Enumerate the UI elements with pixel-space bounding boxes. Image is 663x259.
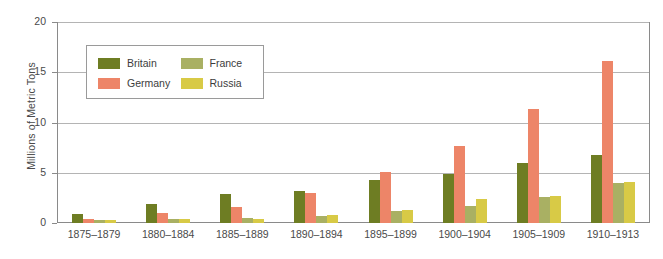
x-axis-tick-label: 1905–1909 xyxy=(513,228,566,240)
bar-britain xyxy=(72,214,83,223)
x-axis-tick-group: 1875–18791880–18841885–18891890–18941895… xyxy=(57,228,650,248)
bar-russia xyxy=(550,196,561,223)
bar-group xyxy=(428,22,502,223)
bar-group xyxy=(502,22,576,223)
bar-france xyxy=(316,216,327,223)
y-axis-tick-label: 20 xyxy=(16,15,46,27)
bar-britain xyxy=(369,180,380,223)
y-axis-tick-label: 10 xyxy=(16,116,46,128)
legend-item-russia: Russia xyxy=(181,77,264,89)
bar-germany xyxy=(305,193,316,223)
bar-russia xyxy=(179,219,190,223)
bar-russia xyxy=(327,215,338,223)
x-axis-tick-label: 1910–1913 xyxy=(587,228,640,240)
bar-chart: Millions of Metric Tons 05101520 1875–18… xyxy=(0,0,663,259)
bar-germany xyxy=(157,213,168,223)
bar-france xyxy=(613,183,624,223)
x-axis-tick-label: 1885–1889 xyxy=(216,228,269,240)
bar-germany xyxy=(454,146,465,223)
bar-france xyxy=(465,206,476,223)
bar-france xyxy=(94,220,105,223)
bar-russia xyxy=(402,210,413,223)
legend-item-germany: Germany xyxy=(98,77,181,89)
bar-britain xyxy=(591,155,602,223)
legend-swatch-britain xyxy=(98,58,120,69)
bar-germany xyxy=(602,61,613,223)
bar-russia xyxy=(253,219,264,223)
bar-britain xyxy=(517,163,528,223)
y-axis-tick-label: 5 xyxy=(16,166,46,178)
bar-germany xyxy=(528,109,539,223)
x-axis-tick-label: 1895–1899 xyxy=(364,228,417,240)
x-axis-tick-label: 1900–1904 xyxy=(438,228,491,240)
legend-swatch-russia xyxy=(181,78,203,89)
bar-germany xyxy=(231,207,242,223)
bar-russia xyxy=(624,182,635,223)
y-axis-tick-mark xyxy=(52,223,57,224)
legend-row: Germany Russia xyxy=(98,73,263,93)
legend-label-britain: Britain xyxy=(127,57,157,69)
x-axis-tick-label: 1875–1879 xyxy=(68,228,121,240)
bar-group xyxy=(279,22,353,223)
bar-group xyxy=(576,22,650,223)
legend-item-france: France xyxy=(181,57,264,69)
bar-france xyxy=(391,211,402,223)
bar-france xyxy=(168,219,179,223)
bar-germany xyxy=(380,172,391,223)
bar-britain xyxy=(146,204,157,223)
legend-label-germany: Germany xyxy=(127,77,170,89)
legend-swatch-germany xyxy=(98,78,120,89)
bar-russia xyxy=(476,199,487,223)
x-axis-tick-label: 1890–1894 xyxy=(290,228,343,240)
bar-france xyxy=(539,197,550,223)
legend-label-france: France xyxy=(210,57,243,69)
bar-britain xyxy=(443,174,454,223)
bar-group xyxy=(354,22,428,223)
y-axis-tick-label: 15 xyxy=(16,65,46,77)
bar-germany xyxy=(83,219,94,223)
legend-row: Britain France xyxy=(98,53,263,73)
bar-france xyxy=(242,218,253,223)
chart-legend: Britain France Germany Russia xyxy=(86,45,264,99)
bar-britain xyxy=(294,191,305,223)
legend-swatch-france xyxy=(181,58,203,69)
legend-item-britain: Britain xyxy=(98,57,181,69)
bar-russia xyxy=(105,220,116,223)
bar-britain xyxy=(220,194,231,223)
x-axis-tick-label: 1880–1884 xyxy=(142,228,195,240)
legend-label-russia: Russia xyxy=(210,77,242,89)
y-axis-tick-label: 0 xyxy=(16,216,46,228)
